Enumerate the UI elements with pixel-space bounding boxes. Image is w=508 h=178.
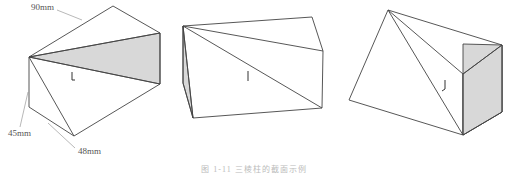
dimension-label-height: 45mm xyxy=(8,128,31,138)
view-2-prism xyxy=(183,17,323,118)
figure-drawing xyxy=(0,0,508,178)
view-3-prism xyxy=(349,10,502,135)
figure-caption: 图 1-11 三棱柱的截面示例 xyxy=(0,163,508,174)
dimension-label-length: 90mm xyxy=(31,2,54,12)
dimension-label-width: 48mm xyxy=(78,146,101,156)
view-1-prism xyxy=(20,6,160,148)
